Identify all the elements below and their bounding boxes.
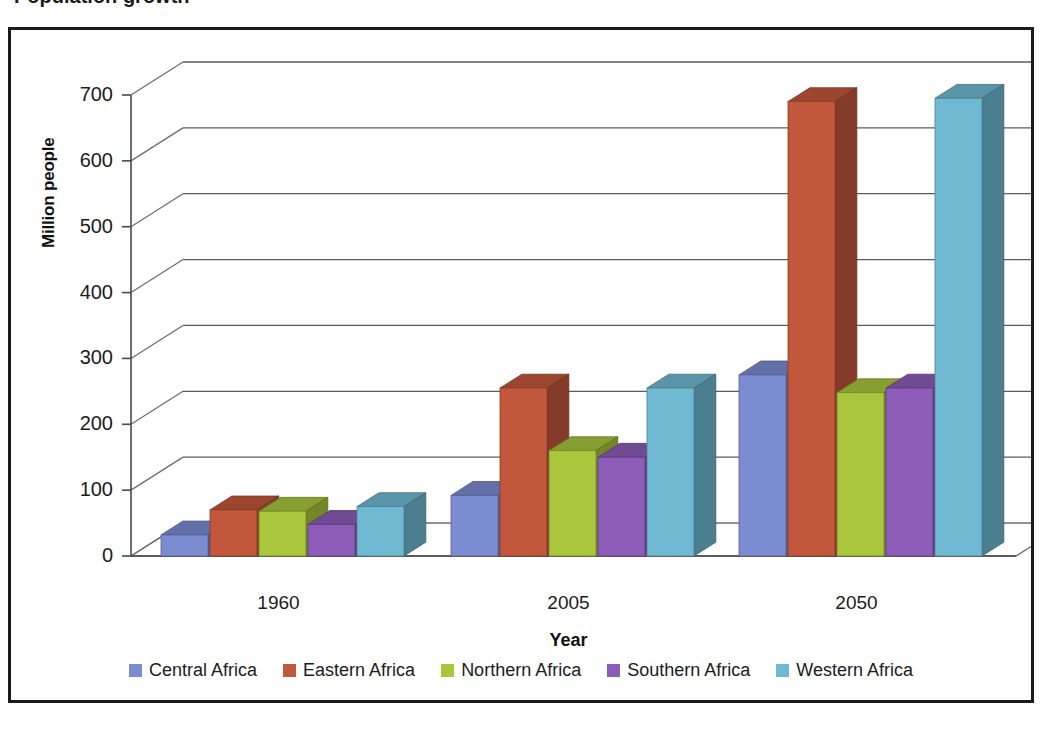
legend-swatch-icon <box>607 664 620 677</box>
y-tick-label: 400 <box>51 282 113 302</box>
legend-label: Western Africa <box>796 660 913 681</box>
y-tick-label: 600 <box>51 150 113 170</box>
chart-frame: Million people 0100200300400500600700 19… <box>8 27 1034 703</box>
y-tick-label: 300 <box>51 347 113 367</box>
y-tick-label: 500 <box>51 216 113 236</box>
plot-area: Million people 0100200300400500600700 19… <box>11 30 1031 700</box>
legend-item-central-africa[interactable]: Central Africa <box>129 660 257 681</box>
legend-label: Central Africa <box>149 660 257 681</box>
legend-item-western-africa[interactable]: Western Africa <box>776 660 913 681</box>
x-tick-label-1960: 1960 <box>199 592 359 614</box>
x-tick-label-2050: 2050 <box>777 592 937 614</box>
bar-western-africa-1960 <box>357 493 426 556</box>
legend-swatch-icon <box>776 664 789 677</box>
cropped-title-fragment: Population growth <box>0 0 1043 22</box>
legend-label: Southern Africa <box>627 660 750 681</box>
x-tick-label-2005: 2005 <box>489 592 649 614</box>
legend-label: Northern Africa <box>461 660 581 681</box>
legend-label: Eastern Africa <box>303 660 415 681</box>
legend-item-southern-africa[interactable]: Southern Africa <box>607 660 750 681</box>
legend-item-northern-africa[interactable]: Northern Africa <box>441 660 581 681</box>
y-tick-label: 100 <box>51 479 113 499</box>
bars-layer <box>161 84 1004 556</box>
bar-western-africa-2005 <box>647 374 716 556</box>
legend-swatch-icon <box>129 664 142 677</box>
y-tick-label: 700 <box>51 84 113 104</box>
legend-swatch-icon <box>441 664 454 677</box>
x-axis-title: Year <box>489 630 649 651</box>
y-tick-label: 0 <box>51 545 113 565</box>
legend-item-eastern-africa[interactable]: Eastern Africa <box>283 660 415 681</box>
chart-legend: Central AfricaEastern AfricaNorthern Afr… <box>11 660 1031 681</box>
y-tick-label: 200 <box>51 413 113 433</box>
cropped-title-text: Population growth <box>14 0 190 8</box>
bar-western-africa-2050 <box>935 84 1004 556</box>
legend-swatch-icon <box>283 664 296 677</box>
